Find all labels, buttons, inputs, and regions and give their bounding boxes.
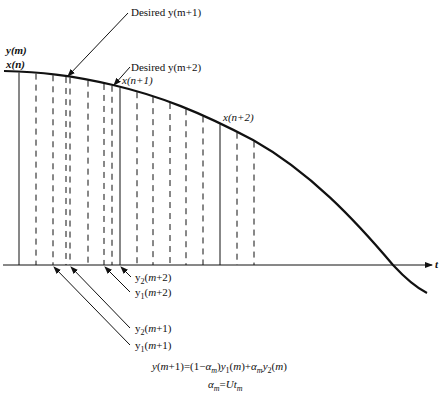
label-t-axis: t — [435, 259, 438, 270]
diagram-canvas — [0, 0, 443, 393]
equation-2: αm=Utm — [208, 379, 243, 393]
label-x-n2: x(n+2) — [223, 112, 254, 123]
leader-y2-m1 — [71, 267, 130, 328]
label-y1-m1: y1(m+1) — [135, 340, 172, 354]
label-x-n: x(n) — [6, 59, 25, 70]
equation-1: y(m+1)=(1−αm)y1(m)+αmy2(m) — [152, 361, 287, 375]
leader-y2-m2 — [121, 267, 131, 277]
signal-curve — [4, 71, 427, 293]
label-x-n1: x(n+1) — [122, 75, 153, 86]
leader-y1-m1 — [54, 267, 130, 345]
label-desired-m1: Desired y(m+1) — [131, 7, 201, 18]
leader-desired-m1 — [68, 13, 128, 76]
label-y2-m1: y2(m+1) — [135, 323, 172, 337]
label-y1-m2: y1(m+2) — [135, 287, 172, 301]
label-desired-m2: Desired y(m+2) — [131, 62, 201, 73]
leader-y1-m2 — [105, 267, 130, 292]
label-y-m: y(m) — [6, 45, 27, 56]
label-y2-m2: y2(m+2) — [135, 272, 172, 286]
